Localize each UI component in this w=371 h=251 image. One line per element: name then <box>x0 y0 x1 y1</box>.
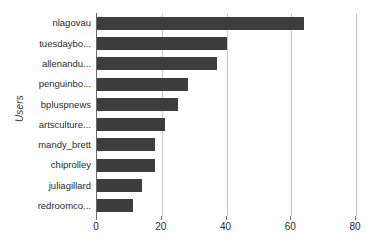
bar[interactable] <box>97 78 188 91</box>
bar[interactable] <box>97 17 304 30</box>
y-axis-tick-label-text: juliagillard <box>49 181 94 191</box>
y-axis-tick-label-text: chiprolley <box>51 160 94 170</box>
y-axis-tick-label: redroomco... <box>20 196 94 216</box>
gridline <box>356 13 357 216</box>
bar[interactable] <box>97 159 155 172</box>
bar-slot <box>97 114 356 134</box>
bar[interactable] <box>97 118 165 131</box>
x-axis-tick-label: 0 <box>93 222 99 232</box>
y-axis-tick-label-text: bpluspnews <box>41 100 94 110</box>
x-axis-tick-mark <box>96 216 97 220</box>
x-axis-tick-mark <box>226 216 227 220</box>
y-axis-tick-label-text: mandy_brett <box>38 140 94 150</box>
bar-slot <box>97 94 356 114</box>
x-axis-tick-label: 80 <box>349 222 360 232</box>
bar-slot <box>97 196 356 216</box>
bar-slot <box>97 74 356 94</box>
y-axis-tick-label: penguinbo... <box>20 74 94 94</box>
bar-slot <box>97 54 356 74</box>
bar[interactable] <box>97 179 142 192</box>
x-axis-tick-mark <box>290 216 291 220</box>
x-axis-tick-mark <box>161 216 162 220</box>
y-axis-tick-label-text: penguinbo... <box>39 79 94 89</box>
y-axis-tick-label: mandy_brett <box>20 135 94 155</box>
bar[interactable] <box>97 138 155 151</box>
y-axis-tick-label-text: allenandu... <box>42 59 94 69</box>
x-axis-tick-label: 20 <box>155 222 166 232</box>
y-axis-tick-label: nlagovau <box>20 13 94 33</box>
y-axis-tick-label: chiprolley <box>20 155 94 175</box>
bar[interactable] <box>97 199 133 212</box>
bar-slot <box>97 135 356 155</box>
bar[interactable] <box>97 37 227 50</box>
y-axis-tick-label: bpluspnews <box>20 94 94 114</box>
bar-slot <box>97 33 356 53</box>
y-axis-tick-label-text: artsculture... <box>39 120 94 130</box>
x-axis-tick-label: 40 <box>220 222 231 232</box>
y-axis-tick-label: artsculture... <box>20 114 94 134</box>
bar-chart: Users nlagovautuesdaybo...allenandu...pe… <box>0 0 371 251</box>
bar-slot <box>97 13 356 33</box>
y-axis-tick-label: allenandu... <box>20 54 94 74</box>
x-axis-tick-label: 60 <box>285 222 296 232</box>
y-axis-tick-label: juliagillard <box>20 175 94 195</box>
y-axis-tick-labels: nlagovautuesdaybo...allenandu...penguinb… <box>20 13 94 216</box>
bar[interactable] <box>97 57 217 70</box>
y-axis-tick-label-text: tuesdaybo... <box>39 39 94 49</box>
y-axis-tick-label-text: redroomco... <box>38 201 94 211</box>
x-axis-tick-labels: 020406080 <box>0 222 371 238</box>
bar-slot <box>97 155 356 175</box>
bar-series <box>97 13 356 216</box>
bar[interactable] <box>97 98 178 111</box>
bar-slot <box>97 175 356 195</box>
y-axis-tick-label: tuesdaybo... <box>20 33 94 53</box>
plot-area <box>96 13 356 216</box>
x-axis-tick-mark <box>355 216 356 220</box>
y-axis-tick-label-text: nlagovau <box>52 18 94 28</box>
